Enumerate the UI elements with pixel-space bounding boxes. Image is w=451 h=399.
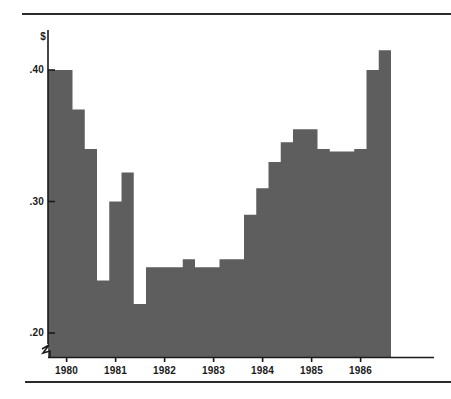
plot-area <box>48 50 391 357</box>
x-axis-tick-label: 1981 <box>98 366 134 376</box>
x-axis-tick-label: 1980 <box>49 366 85 376</box>
y-axis-tick-label: .40 <box>18 65 44 75</box>
x-axis-tick-label: 1986 <box>343 366 379 376</box>
x-axis-tick-label: 1984 <box>245 366 281 376</box>
y-axis-tick-label: .20 <box>18 328 44 338</box>
x-axis-tick-label: 1985 <box>294 366 330 376</box>
step-area-series <box>48 50 391 357</box>
y-axis-unit-label: $ <box>34 32 46 42</box>
x-axis-tick-label: 1983 <box>196 366 232 376</box>
y-axis-tick-label: .30 <box>18 197 44 207</box>
chart-figure: $.20.30.401980198119821983198419851986 <box>0 0 451 399</box>
chart-svg <box>0 0 451 399</box>
x-axis-tick-label: 1982 <box>147 366 183 376</box>
